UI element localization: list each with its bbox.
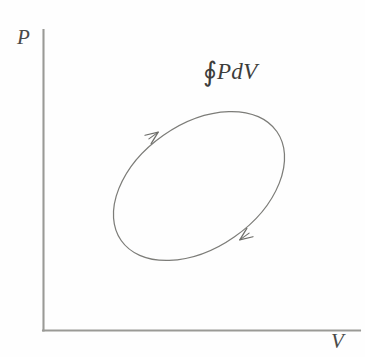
x-axis-label: V (331, 331, 344, 352)
cycle-ellipse (86, 81, 313, 292)
contour-integral-icon: ∮ (203, 57, 217, 87)
cycle-curve-group (86, 81, 313, 292)
pv-diagram-figure: P V ∮PdV (0, 0, 365, 357)
y-axis-label: P (17, 27, 30, 48)
pv-diagram-canvas (0, 0, 365, 357)
lower-right-arrow (237, 228, 253, 244)
integrand-label: PdV (217, 59, 258, 84)
upper-left-arrow (145, 128, 161, 144)
work-integral-annotation: ∮PdV (203, 59, 258, 86)
